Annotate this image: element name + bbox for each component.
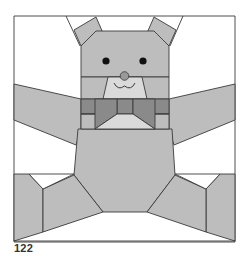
quilt-block-diagram	[0, 0, 250, 262]
head	[81, 31, 169, 77]
bow-knot	[117, 99, 133, 114]
right-eye-icon	[139, 57, 146, 64]
page-number: 122	[14, 242, 33, 254]
left-eye-icon	[102, 57, 109, 64]
nose-icon	[120, 72, 129, 81]
